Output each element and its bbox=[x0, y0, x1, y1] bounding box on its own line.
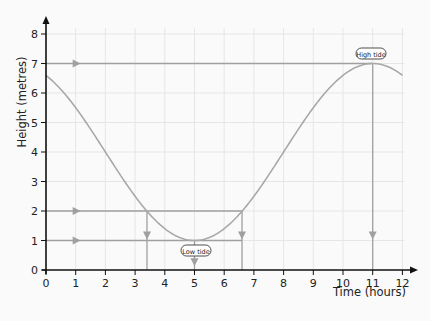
high-tide-label: High tide bbox=[356, 51, 386, 59]
x-tick-label: 8 bbox=[280, 277, 287, 290]
y-tick-label: 6 bbox=[31, 87, 38, 100]
tide-chart: 0123456789101112 012345678 Time (hours) … bbox=[0, 0, 430, 321]
y-tick-label: 5 bbox=[31, 117, 38, 130]
x-tick-label: 9 bbox=[310, 277, 317, 290]
y-tick-label: 3 bbox=[31, 176, 38, 189]
y-axis-ticks: 012345678 bbox=[31, 28, 46, 277]
x-tick-label: 5 bbox=[191, 277, 198, 290]
x-tick-label: 7 bbox=[250, 277, 257, 290]
x-tick-label: 3 bbox=[132, 277, 139, 290]
y-tick-label: 7 bbox=[31, 58, 38, 71]
x-tick-label: 2 bbox=[102, 277, 109, 290]
x-tick-label: 6 bbox=[221, 277, 228, 290]
y-tick-label: 1 bbox=[31, 235, 38, 248]
x-axis-title: Time (hours) bbox=[332, 285, 406, 299]
y-tick-label: 4 bbox=[31, 146, 38, 159]
x-tick-label: 1 bbox=[72, 277, 79, 290]
low-tide-annotation: Low tide bbox=[181, 245, 211, 256]
y-tick-label: 8 bbox=[31, 28, 38, 41]
grid-lines bbox=[46, 28, 404, 270]
high-tide-annotation: High tide bbox=[356, 48, 386, 59]
x-tick-label: 4 bbox=[161, 277, 168, 290]
y-axis-title: Height (metres) bbox=[15, 57, 29, 148]
chart-canvas: 0123456789101112 012345678 Time (hours) … bbox=[0, 0, 430, 321]
y-tick-label: 2 bbox=[31, 205, 38, 218]
low-tide-label: Low tide bbox=[182, 248, 209, 256]
x-tick-label: 0 bbox=[43, 277, 50, 290]
y-tick-label: 0 bbox=[31, 264, 38, 277]
